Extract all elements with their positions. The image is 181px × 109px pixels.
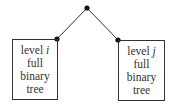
right-box-line1: level j — [127, 45, 155, 58]
left-box-line1: level i — [21, 44, 49, 57]
right-box-line3: binary — [127, 71, 156, 84]
left-box-line2: full — [27, 57, 43, 70]
left-level-label: level — [21, 44, 46, 56]
right-box-line2: full — [134, 58, 150, 71]
root-node — [84, 5, 89, 10]
right-box-line4: tree — [133, 84, 150, 97]
left-box-line4: tree — [26, 83, 43, 96]
left-subtree-box: level i full binary tree — [12, 39, 58, 100]
right-level-var: j — [153, 45, 156, 57]
edge-root-left — [57, 8, 87, 39]
left-level-var: i — [46, 44, 49, 56]
left-box-line3: binary — [20, 70, 49, 83]
right-subtree-box: level j full binary tree — [118, 40, 165, 101]
right-level-label: level — [127, 45, 152, 57]
edge-root-right — [87, 8, 118, 40]
